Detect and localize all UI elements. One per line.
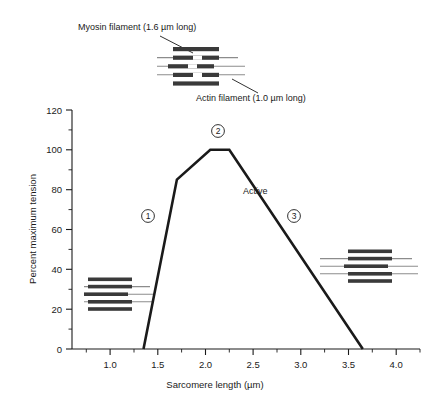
active-tension-curve — [144, 150, 363, 349]
sarcomere-diagram-optimal — [157, 47, 245, 86]
myosin-callout-label: Myosin filament (1.6 µm long) — [78, 22, 196, 32]
stage-1-marker: 1 — [142, 210, 155, 223]
y-tick-label-80: 80 — [51, 184, 62, 195]
x-tick-label-2-0: 2.0 — [199, 359, 212, 370]
x-axis-ticks — [86, 349, 420, 355]
y-tick-label-120: 120 — [46, 105, 62, 116]
y-tick-label-100: 100 — [46, 144, 62, 155]
y-tick-label-0: 0 — [57, 344, 62, 355]
actin-leader-line — [232, 79, 258, 93]
y-axis-tick-labels: 0 20 40 60 80 100 120 — [46, 105, 62, 355]
y-tick-label-20: 20 — [51, 304, 62, 315]
x-tick-label-3-5: 3.5 — [342, 359, 355, 370]
figure-canvas: Myosin filament (1.6 µm long) Actin fila… — [0, 0, 433, 403]
x-tick-label-1-5: 1.5 — [151, 359, 164, 370]
x-tick-label-2-5: 2.5 — [246, 359, 259, 370]
stage-2-marker: 2 — [212, 125, 225, 138]
y-tick-label-60: 60 — [51, 224, 62, 235]
x-tick-label-1-0: 1.0 — [103, 359, 116, 370]
stage-3-marker-label: 3 — [292, 211, 297, 221]
stage-2-marker-label: 2 — [216, 126, 221, 136]
sarcomere-diagram-stretched — [320, 250, 418, 283]
y-tick-label-40: 40 — [51, 264, 62, 275]
stage-3-marker: 3 — [288, 210, 301, 223]
y-axis-ticks — [66, 110, 72, 349]
x-axis-tick-labels: 1.0 1.5 2.0 2.5 3.0 3.5 4.0 — [103, 359, 402, 370]
stage-1-marker-label: 1 — [146, 211, 151, 221]
x-tick-label-4-0: 4.0 — [390, 359, 403, 370]
y-axis-title: Percent maximum tension — [27, 174, 38, 284]
sarcomere-length-tension-figure: Myosin filament (1.6 µm long) Actin fila… — [0, 0, 433, 403]
active-curve-label: Active — [243, 186, 268, 196]
x-axis-title: Sarcomere length (µm) — [166, 379, 263, 390]
sarcomere-diagram-compressed — [84, 278, 154, 311]
actin-callout-label: Actin filament (1.0 µm long) — [196, 93, 306, 103]
x-tick-label-3-0: 3.0 — [294, 359, 307, 370]
